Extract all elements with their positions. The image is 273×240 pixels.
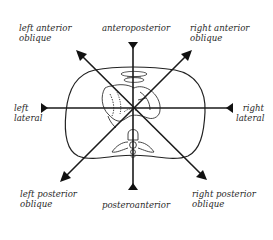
label-anteroposterior: anteroposterior [102, 24, 170, 34]
label-right-lateral: right lateral [236, 104, 264, 123]
arrow-down-icon [128, 42, 138, 49]
arrow-left-icon [226, 103, 233, 113]
label-line: oblique [190, 34, 249, 44]
label-line: posteroanterior [102, 201, 170, 211]
label-posteroanterior: posteroanterior [102, 201, 170, 211]
body-outline [65, 67, 205, 158]
label-line: oblique [192, 200, 256, 210]
label-line: anteroposterior [102, 24, 170, 34]
arrow-up-icon [128, 183, 138, 190]
label-left-posterior-oblique: left posterior oblique [20, 190, 77, 209]
label-line: oblique [20, 200, 77, 210]
label-left-anterior-oblique: left anterior oblique [19, 24, 72, 43]
label-line: lateral [14, 114, 42, 124]
sternum-icon [121, 71, 147, 82]
label-right-posterior-oblique: right posterior oblique [192, 190, 256, 209]
label-line: lateral [236, 114, 264, 124]
label-line: oblique [19, 34, 72, 44]
label-left-lateral: left lateral [14, 104, 42, 123]
label-right-anterior-oblique: right anterior oblique [190, 24, 249, 43]
rao-lpo-line [64, 54, 188, 178]
